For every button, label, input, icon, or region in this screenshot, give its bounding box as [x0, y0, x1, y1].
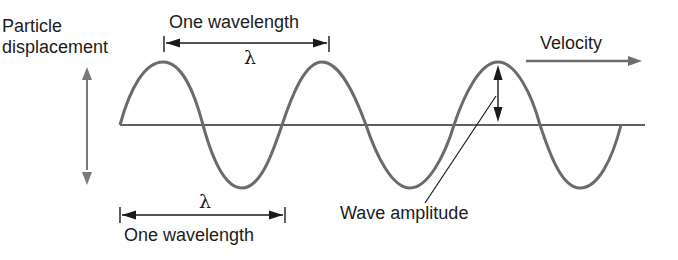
particle-displacement-label-line2: displacement: [2, 37, 108, 58]
wavelength-label-top: One wavelength: [169, 12, 299, 33]
wavelength-label-bottom: One wavelength: [124, 225, 254, 246]
particle-displacement-label: Particle displacement: [2, 16, 108, 58]
velocity-label: Velocity: [540, 33, 602, 54]
lambda-symbol-top: λ: [244, 47, 256, 67]
velocity-arrow-icon: [526, 56, 642, 66]
amplitude-arrow-icon: [494, 65, 503, 122]
lambda-symbol-bottom: λ: [199, 191, 211, 211]
particle-displacement-label-line1: Particle: [2, 16, 108, 37]
wave-amplitude-label: Wave amplitude: [340, 203, 468, 224]
displacement-arrow-icon: [82, 67, 92, 185]
amplitude-leader-line: [425, 96, 496, 203]
